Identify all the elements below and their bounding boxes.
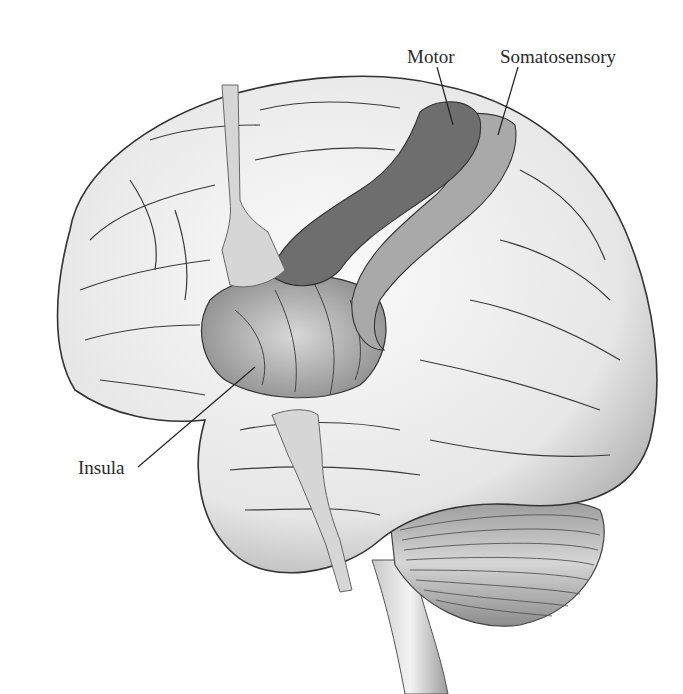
somatosensory-label: Somatosensory (500, 47, 616, 66)
insula-label: Insula (78, 458, 124, 477)
brain-illustration (0, 0, 683, 694)
motor-label: Motor (407, 47, 455, 66)
